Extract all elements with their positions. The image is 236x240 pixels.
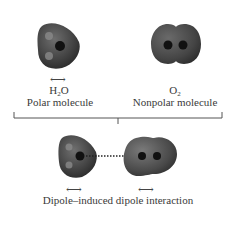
induced-dipole-arrow: ⟷ bbox=[134, 184, 158, 194]
formula-part: O bbox=[61, 84, 69, 96]
water-dipole-arrow: ⟷ bbox=[62, 184, 86, 194]
oxygen-molecule-icon bbox=[150, 22, 202, 66]
oxygen-molecule bbox=[150, 22, 202, 66]
dipole-arrow: ⟷ bbox=[46, 74, 70, 84]
water-molecule-icon bbox=[34, 20, 82, 70]
water-description: Polar molecule bbox=[10, 96, 110, 108]
caption: Dipole–induced dipole interaction bbox=[0, 194, 236, 206]
interaction-diagram bbox=[56, 132, 180, 180]
water-molecule bbox=[34, 20, 82, 70]
oxygen-description: Nonpolar molecule bbox=[120, 96, 230, 108]
grouping-bracket bbox=[0, 108, 236, 124]
